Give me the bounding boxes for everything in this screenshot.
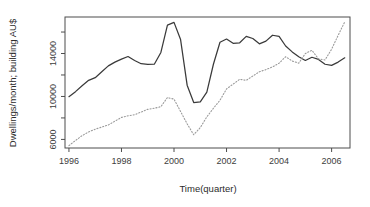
x-tick-label: 1998 [111,156,131,166]
x-axis-title: Time(quarter) [179,183,236,194]
x-tick-label: 2000 [164,156,184,166]
x-tick-label: 2006 [322,156,342,166]
chart-figure: 60001000014000 199619982000200220042006 … [0,0,370,207]
timeseries-chart: 60001000014000 199619982000200220042006 … [0,0,370,207]
x-tick-label: 1996 [59,156,79,166]
x-tick-label: 2002 [217,156,237,166]
x-tick-label: 2004 [269,156,289,166]
y-axis-tick-labels: 60001000014000 [48,41,58,149]
y-tick-label: 10000 [48,84,58,109]
y-tick-label: 14000 [48,41,58,66]
y-axis-title: Dwellings/month; building AU$ [7,18,18,147]
y-tick-label: 6000 [48,129,58,149]
